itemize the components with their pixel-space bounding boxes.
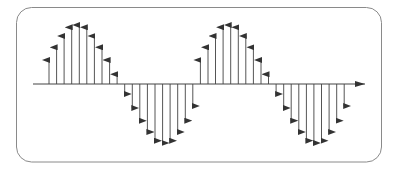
sampled-sine-diagram	[0, 0, 397, 170]
